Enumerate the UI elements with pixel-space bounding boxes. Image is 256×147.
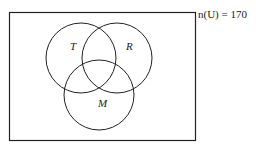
circle-t <box>46 23 116 93</box>
universe-rectangle <box>10 13 196 141</box>
label-m: M <box>97 97 108 109</box>
universe-count-label: n(U) = 170 <box>198 8 247 20</box>
venn-diagram: T R M <box>0 0 256 147</box>
label-r: R <box>125 40 133 52</box>
circle-r <box>82 23 152 93</box>
label-t: T <box>70 40 77 52</box>
circle-m <box>64 60 134 130</box>
